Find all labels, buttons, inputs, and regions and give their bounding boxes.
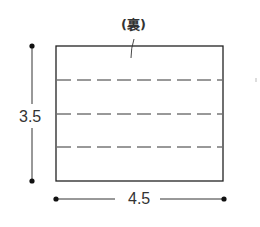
fold-lines — [57, 80, 222, 147]
width-label: 4.5 — [124, 191, 154, 207]
height-dot-bottom — [29, 178, 34, 183]
height-dot-top — [29, 43, 34, 48]
back-side-label: (裏) — [121, 18, 146, 31]
width-dot-right — [221, 196, 226, 201]
back-side-leader-line — [131, 39, 134, 58]
height-label: 3.5 — [19, 107, 41, 127]
width-dot-left — [53, 196, 58, 201]
